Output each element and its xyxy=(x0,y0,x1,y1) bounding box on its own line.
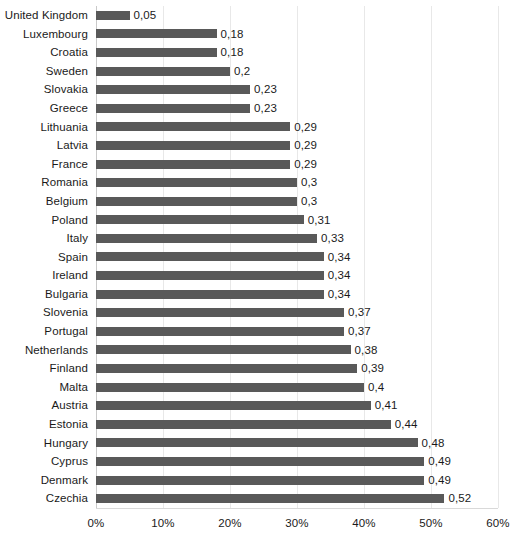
bar-row: Ireland0,34 xyxy=(0,266,522,285)
bar-row: Denmark0,49 xyxy=(0,471,522,490)
bar xyxy=(96,364,357,373)
bar-row: Luxembourg0,18 xyxy=(0,25,522,44)
bar xyxy=(96,48,217,57)
category-label: Portugal xyxy=(0,322,88,341)
bar-row: Hungary0,48 xyxy=(0,434,522,453)
bar xyxy=(96,11,130,20)
bar-value-label: 0,18 xyxy=(221,25,244,44)
bar-value-label: 0,29 xyxy=(294,118,317,137)
category-label: Spain xyxy=(0,248,88,267)
bar-rows: United Kingdom0,05Luxembourg0,18Croatia0… xyxy=(0,6,522,508)
bar-value-label: 0,3 xyxy=(301,173,317,192)
category-label: Estonia xyxy=(0,415,88,434)
bar-row: Spain0,34 xyxy=(0,248,522,267)
category-label: Slovakia xyxy=(0,80,88,99)
bar xyxy=(96,271,324,280)
bar xyxy=(96,197,297,206)
x-tick-label: 0% xyxy=(66,512,126,534)
bar-row: Sweden0,2 xyxy=(0,62,522,81)
bar-value-label: 0,33 xyxy=(321,229,344,248)
category-label: Slovenia xyxy=(0,303,88,322)
category-label: United Kingdom xyxy=(0,6,88,25)
bar xyxy=(96,420,391,429)
bar-value-label: 0,4 xyxy=(368,378,384,397)
bar-value-label: 0,34 xyxy=(328,266,351,285)
bar-value-label: 0,34 xyxy=(328,285,351,304)
bar-value-label: 0,34 xyxy=(328,248,351,267)
bar-row: Latvia0,29 xyxy=(0,136,522,155)
bar-value-label: 0,38 xyxy=(355,341,378,360)
bar xyxy=(96,494,444,503)
x-tick-label: 50% xyxy=(401,512,461,534)
category-label: Poland xyxy=(0,211,88,230)
bar xyxy=(96,345,351,354)
bar-value-label: 0,37 xyxy=(348,322,371,341)
bar xyxy=(96,160,290,169)
category-label: Austria xyxy=(0,396,88,415)
bar-row: Romania0,3 xyxy=(0,173,522,192)
bar-row: Croatia0,18 xyxy=(0,43,522,62)
bar-value-label: 0,05 xyxy=(134,6,157,25)
bar-chart: United Kingdom0,05Luxembourg0,18Croatia0… xyxy=(0,0,522,545)
category-label: Ireland xyxy=(0,266,88,285)
bar xyxy=(96,252,324,261)
category-label: Finland xyxy=(0,359,88,378)
bar-row: Netherlands0,38 xyxy=(0,341,522,360)
bar xyxy=(96,122,290,131)
bar-value-label: 0,29 xyxy=(294,136,317,155)
bar-value-label: 0,41 xyxy=(375,396,398,415)
bar xyxy=(96,438,418,447)
bar-row: Finland0,39 xyxy=(0,359,522,378)
category-label: Latvia xyxy=(0,136,88,155)
bar xyxy=(96,401,371,410)
bar-row: Italy0,33 xyxy=(0,229,522,248)
category-label: Czechia xyxy=(0,489,88,508)
bar-value-label: 0,49 xyxy=(428,471,451,490)
bar-row: Portugal0,37 xyxy=(0,322,522,341)
category-label: Sweden xyxy=(0,62,88,81)
bar xyxy=(96,308,344,317)
category-label: Belgium xyxy=(0,192,88,211)
bar-row: Austria0,41 xyxy=(0,396,522,415)
category-label: Italy xyxy=(0,229,88,248)
bar-row: Estonia0,44 xyxy=(0,415,522,434)
bar xyxy=(96,383,364,392)
bar xyxy=(96,104,250,113)
bar-row: Poland0,31 xyxy=(0,211,522,230)
x-tick-label: 60% xyxy=(468,512,522,534)
bar xyxy=(96,327,344,336)
bar-value-label: 0,23 xyxy=(254,80,277,99)
category-label: Bulgaria xyxy=(0,285,88,304)
bar-value-label: 0,3 xyxy=(301,192,317,211)
x-tick-label: 30% xyxy=(267,512,327,534)
bar-row: Cyprus0,49 xyxy=(0,452,522,471)
x-axis-line xyxy=(96,508,498,509)
bar-row: Czechia0,52 xyxy=(0,489,522,508)
bar xyxy=(96,29,217,38)
bar-row: Slovakia0,23 xyxy=(0,80,522,99)
bar-row: Belgium0,3 xyxy=(0,192,522,211)
bar-value-label: 0,52 xyxy=(448,489,471,508)
category-label: France xyxy=(0,155,88,174)
category-label: Lithuania xyxy=(0,118,88,137)
x-tick-label: 10% xyxy=(133,512,193,534)
bar-value-label: 0,44 xyxy=(395,415,418,434)
x-tick-label: 20% xyxy=(200,512,260,534)
bar xyxy=(96,457,424,466)
category-label: Luxembourg xyxy=(0,25,88,44)
bar-value-label: 0,18 xyxy=(221,43,244,62)
bar-value-label: 0,2 xyxy=(234,62,250,81)
category-label: Hungary xyxy=(0,434,88,453)
bar-value-label: 0,29 xyxy=(294,155,317,174)
bar xyxy=(96,476,424,485)
bar-value-label: 0,49 xyxy=(428,452,451,471)
category-label: Denmark xyxy=(0,471,88,490)
bar xyxy=(96,290,324,299)
bar-row: Greece0,23 xyxy=(0,99,522,118)
category-label: Romania xyxy=(0,173,88,192)
bar-value-label: 0,39 xyxy=(361,359,384,378)
category-label: Cyprus xyxy=(0,452,88,471)
category-label: Croatia xyxy=(0,43,88,62)
bar xyxy=(96,234,317,243)
bar-row: France0,29 xyxy=(0,155,522,174)
